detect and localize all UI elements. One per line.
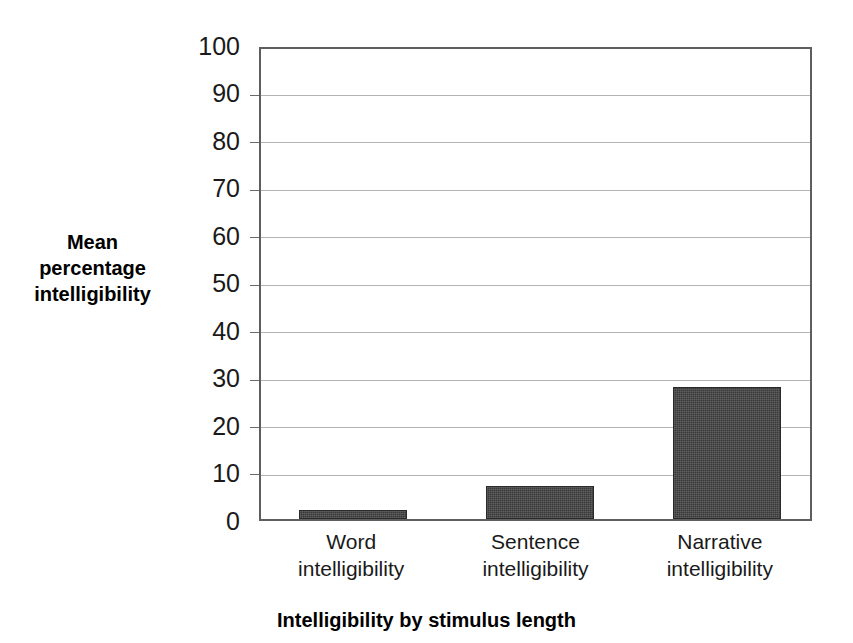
y-tick-label-100: 100 <box>178 34 240 59</box>
bar-chart-figure: 100 90 80 70 60 50 40 30 20 10 0 Mean pe… <box>0 0 853 643</box>
x-label-narrative-line-1: Narrative <box>628 528 812 555</box>
y-axis-title: Mean percentage intelligibility <box>10 229 175 307</box>
gridline-90 <box>261 95 810 96</box>
bar-word-intelligibility <box>299 510 407 519</box>
gridline-40 <box>261 332 810 333</box>
x-label-sentence: Sentence intelligibility <box>443 528 627 590</box>
y-tick-label-50: 50 <box>178 271 240 296</box>
y-tick-mark-60 <box>250 237 259 238</box>
y-tick-mark-70 <box>250 190 259 191</box>
y-tick-mark-40 <box>250 332 259 333</box>
y-axis-title-line-3: intelligibility <box>10 281 175 307</box>
y-axis-title-line-2: percentage <box>10 255 175 281</box>
gridline-70 <box>261 190 810 191</box>
x-axis-category-labels: Word intelligibility Sentence intelligib… <box>259 528 812 590</box>
x-axis-title: Intelligibility by stimulus length <box>0 608 853 632</box>
y-tick-label-70: 70 <box>178 176 240 201</box>
y-tick-label-80: 80 <box>178 129 240 154</box>
y-axis-tick-labels: 100 90 80 70 60 50 40 30 20 10 0 <box>120 0 240 643</box>
y-tick-label-0: 0 <box>178 509 240 534</box>
y-tick-mark-10 <box>250 474 259 475</box>
y-tick-mark-90 <box>250 95 259 96</box>
y-tick-label-20: 20 <box>178 414 240 439</box>
bar-sentence-intelligibility <box>486 486 594 519</box>
y-tick-label-40: 40 <box>178 319 240 344</box>
y-tick-mark-50 <box>250 285 259 286</box>
y-tick-mark-20 <box>250 427 259 428</box>
x-label-word-line-2: intelligibility <box>259 555 443 582</box>
plot-area <box>259 47 812 521</box>
y-tick-mark-30 <box>250 380 259 381</box>
x-label-word: Word intelligibility <box>259 528 443 590</box>
y-tick-label-90: 90 <box>178 81 240 106</box>
y-tick-label-60: 60 <box>178 224 240 249</box>
y-tick-label-10: 10 <box>178 461 240 486</box>
x-label-sentence-line-2: intelligibility <box>443 555 627 582</box>
x-label-sentence-line-1: Sentence <box>443 528 627 555</box>
bar-narrative-intelligibility <box>673 387 781 519</box>
gridline-60 <box>261 237 810 238</box>
x-label-word-line-1: Word <box>259 528 443 555</box>
gridline-80 <box>261 142 810 143</box>
x-label-narrative-line-2: intelligibility <box>628 555 812 582</box>
y-tick-label-30: 30 <box>178 366 240 391</box>
y-axis-title-line-1: Mean <box>10 229 175 255</box>
x-label-narrative: Narrative intelligibility <box>628 528 812 590</box>
y-tick-mark-80 <box>250 142 259 143</box>
gridline-30 <box>261 380 810 381</box>
gridline-50 <box>261 285 810 286</box>
